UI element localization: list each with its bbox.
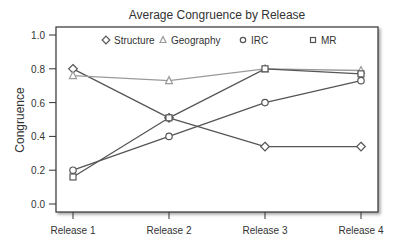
square-marker-icon [262,66,268,72]
legend-label: Geography [171,35,220,46]
square-marker-icon [311,38,316,43]
y-tick-label: 0.6 [31,98,45,109]
y-tick-label: 0.0 [31,199,45,210]
circle-marker-icon [166,133,172,139]
circle-marker-icon [358,77,364,83]
circle-marker-icon [262,99,268,105]
y-tick-label: 0.4 [31,131,45,142]
circle-marker-icon [240,37,245,42]
y-tick-label: 0.8 [31,64,45,75]
chart-title: Average Congruence by Release [129,8,306,22]
y-tick-label: 0.2 [31,165,45,176]
line-chart: Average Congruence by Release Congruence… [0,0,398,246]
x-axis: Release 1Release 2Release 3Release 4 [50,212,383,236]
square-marker-icon [166,115,172,121]
x-tick-label: Release 4 [338,225,383,236]
legend-label: IRC [251,35,268,46]
square-marker-icon [70,174,76,180]
x-tick-label: Release 2 [146,225,191,236]
legend-label: Structure [114,35,155,46]
x-tick-label: Release 1 [50,225,95,236]
y-axis-label: Congruence [13,87,27,153]
square-marker-icon [358,71,364,77]
y-tick-label: 1.0 [31,30,45,41]
circle-marker-icon [70,167,76,173]
x-tick-label: Release 3 [242,225,287,236]
legend-label: MR [321,35,337,46]
y-axis: 0.00.20.40.60.81.0 [31,30,56,210]
